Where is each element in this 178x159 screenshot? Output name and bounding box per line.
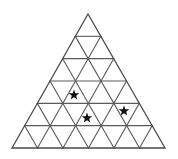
star-markers-group — [69, 90, 129, 123]
grid-line-left-lean-5 — [140, 126, 153, 148]
grid-line-right-lean-5 — [25, 126, 38, 148]
figure-container — [0, 0, 178, 159]
triangular-grid-figure — [0, 0, 178, 159]
grid-line-left-lean-1 — [38, 36, 101, 148]
grid-line-right-lean-1 — [75, 36, 139, 148]
star-icon-star-2 — [82, 113, 92, 123]
